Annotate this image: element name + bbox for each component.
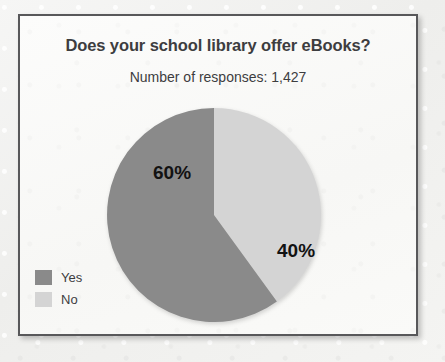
legend-swatch-yes-icon <box>35 270 52 285</box>
pie-chart: 60% 40% <box>107 108 321 322</box>
legend-label-yes: Yes <box>61 270 82 285</box>
legend-item-yes[interactable]: Yes <box>35 266 82 288</box>
chart-title: Does your school library offer eBooks? <box>20 36 416 55</box>
legend-label-no: No <box>61 292 78 307</box>
chart-frame: Does your school library offer eBooks? N… <box>18 14 418 336</box>
chart-subtitle: Number of responses: 1,427 <box>20 69 416 85</box>
pie-slice-label-yes: 60% <box>153 162 191 184</box>
legend-swatch-no-icon <box>35 292 52 307</box>
pie-slice-label-no: 40% <box>277 240 315 262</box>
chart-page: Does your school library offer eBooks? N… <box>0 0 445 362</box>
pie-svg <box>107 108 321 322</box>
legend-item-no[interactable]: No <box>35 288 82 310</box>
chart-legend: Yes No <box>35 266 82 310</box>
